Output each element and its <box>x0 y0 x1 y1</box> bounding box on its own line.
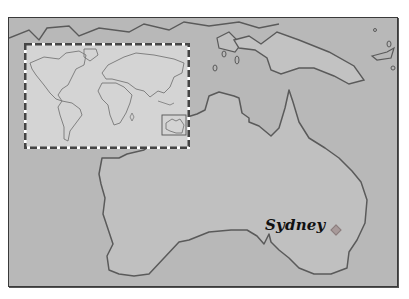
solomon-islands-coastline <box>372 48 394 60</box>
new-guinea-coastline <box>234 32 364 84</box>
city-label-sydney[interactable]: Sydney <box>265 216 325 234</box>
world-map-inset <box>24 43 190 149</box>
world-map <box>24 43 190 149</box>
map-frame <box>8 17 398 287</box>
asia-coastline <box>9 22 279 40</box>
